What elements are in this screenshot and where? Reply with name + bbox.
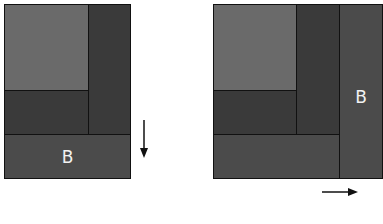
lower-dark-block	[4, 90, 89, 135]
block-b-label: B	[340, 77, 382, 117]
arrow-right-icon	[320, 186, 362, 198]
light-block	[4, 4, 89, 91]
arrow-down-icon	[138, 118, 150, 160]
block-b-label: B	[5, 135, 130, 178]
lower-dark-block	[213, 90, 297, 135]
right-dark-strip	[88, 4, 131, 135]
middle-dark-strip	[296, 4, 340, 135]
bottom-band	[213, 134, 340, 179]
left-diagram: B	[0, 0, 190, 224]
block-b: B	[4, 134, 131, 179]
light-block	[213, 4, 297, 91]
block-b: B	[339, 4, 383, 179]
right-diagram: B	[190, 0, 381, 224]
